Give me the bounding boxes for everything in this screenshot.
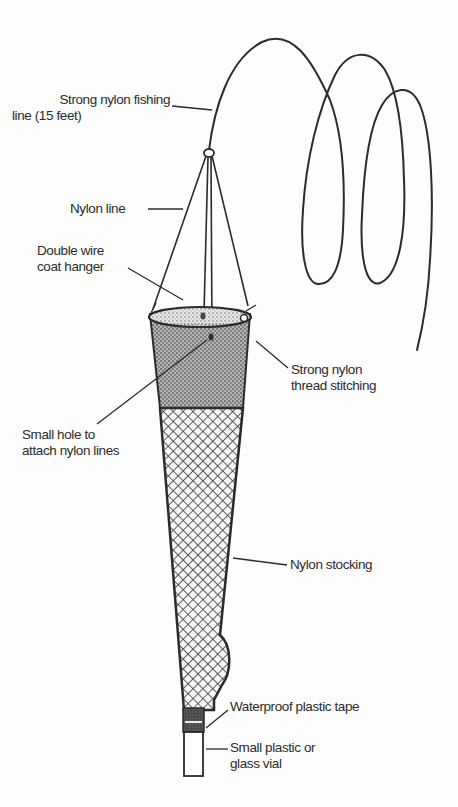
attach-hole-front [209,334,214,341]
label-thread-stitching: Strong nylon thread stitching [291,362,376,394]
label-fishing-line: Strong nylon fishing line (15 feet) [4,92,170,124]
label-text: thread stitching [291,378,376,394]
label-text: Strong nylon fishing [4,92,170,108]
label-vial: Small plastic or glass vial [230,740,315,772]
label-text: Nylon line [70,201,125,217]
label-text: Double wire [37,243,104,259]
waterproof-tape [183,708,204,732]
label-coat-hanger: Double wire coat hanger [37,243,104,275]
plankton-net-diagram: Strong nylon fishing line (15 feet) Nylo… [0,0,458,807]
nylon-stocking-body [160,408,243,710]
label-nylon-stocking: Nylon stocking [290,557,372,573]
label-nylon-line: Nylon line [70,201,125,217]
attach-hole-right [241,315,248,322]
attach-hole-left [201,313,206,320]
label-small-hole: Small hole to attach nylon lines [22,427,119,459]
label-text: Waterproof plastic tape [230,699,359,715]
label-text: attach nylon lines [22,443,119,459]
label-text: Small hole to [22,427,119,443]
label-text: glass vial [230,756,315,772]
label-text: coat hanger [37,259,104,275]
label-text: line (15 feet) [4,108,170,124]
label-waterproof-tape: Waterproof plastic tape [230,699,359,715]
collection-vial [184,732,203,776]
label-text: Nylon stocking [290,557,372,573]
label-text: Strong nylon [291,362,376,378]
swivel-ring [204,149,214,157]
fishing-line [209,39,432,350]
label-text: Small plastic or [230,740,315,756]
